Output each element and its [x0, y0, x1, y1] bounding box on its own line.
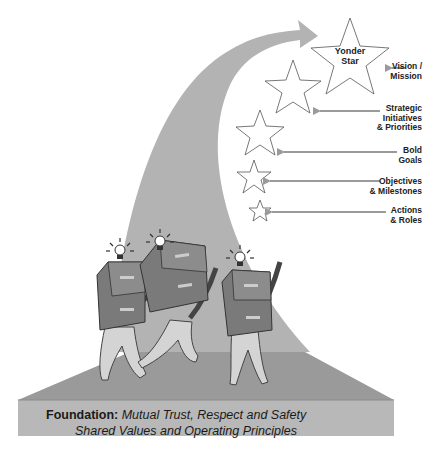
lightbulb-icon — [115, 245, 125, 255]
yonder-star-diagram: Yonder Star Vision / Mission Strategic I… — [0, 0, 438, 453]
yonder-star-label: Yonder Star — [327, 46, 373, 66]
foundation-values-1: Mutual Trust, Respect and Safety — [122, 408, 307, 422]
star-objectives-icon — [237, 160, 271, 193]
star-bold-icon — [236, 110, 284, 155]
foundation-values-2: Shared Values and Operating Principles — [75, 424, 297, 438]
foundation-line-1: Foundation: Mutual Trust, Respect and Sa… — [46, 408, 306, 422]
star-actions-icon — [249, 200, 271, 221]
level-label-bold: Bold Goals — [398, 146, 422, 165]
lightbulb-icon — [235, 252, 245, 262]
lightbulb-icon — [155, 236, 165, 246]
level-label-objectives: Objectives & Milestones — [370, 177, 422, 196]
level-label-vision: Vision / Mission — [390, 62, 422, 81]
star-strategic-icon — [265, 60, 321, 113]
level-label-actions: Actions & Roles — [390, 206, 422, 225]
level-label-strategic: Strategic Initiatives & Priorities — [377, 104, 422, 133]
foundation-label: Foundation: — [46, 408, 118, 422]
